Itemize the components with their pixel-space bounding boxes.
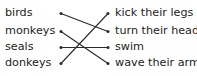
right-dot-kick-their-legs xyxy=(107,12,110,15)
matching-exercise: birds monkeys seals donkeys kick their l… xyxy=(0,0,197,76)
left-column: birds monkeys seals donkeys xyxy=(0,0,58,76)
right-item-wave-their-arms[interactable]: wave their arms xyxy=(115,55,197,71)
right-dot-wave-their-arms xyxy=(107,62,110,65)
left-item-monkeys[interactable]: monkeys xyxy=(0,23,58,39)
right-item-swim[interactable]: swim xyxy=(115,39,197,55)
left-dot-donkeys xyxy=(60,62,63,65)
left-dot-monkeys xyxy=(60,30,63,33)
connection-line-monkeys-wave-their-arms[interactable] xyxy=(61,32,108,64)
connector-dots xyxy=(60,12,110,65)
left-dot-birds xyxy=(60,12,63,15)
connection-line-birds-turn-their-heads[interactable] xyxy=(61,14,108,32)
connection-line-donkeys-kick-their-legs[interactable] xyxy=(61,14,108,64)
right-dot-turn-their-heads xyxy=(107,30,110,33)
right-column: kick their legs turn their heads swim wa… xyxy=(115,0,197,76)
right-item-turn-their-heads[interactable]: turn their heads xyxy=(115,23,197,39)
right-item-kick-their-legs[interactable]: kick their legs xyxy=(115,5,197,21)
right-dot-swim xyxy=(107,46,110,49)
left-item-seals[interactable]: seals xyxy=(0,39,58,55)
left-item-birds[interactable]: birds xyxy=(0,5,58,21)
left-dot-seals xyxy=(60,46,63,49)
left-item-donkeys[interactable]: donkeys xyxy=(0,55,58,71)
